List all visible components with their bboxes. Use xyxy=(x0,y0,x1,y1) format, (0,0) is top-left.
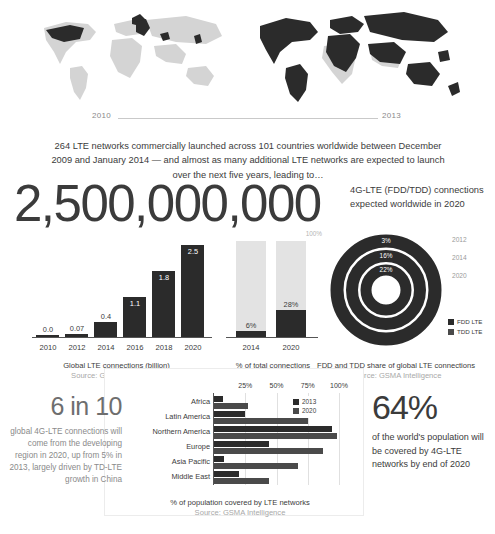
pct-category-label: 2020 xyxy=(271,343,311,352)
hbar-bar xyxy=(214,456,224,462)
chart-population-coverage: 25%50%75%100% AfricaLatin AmericaNorther… xyxy=(120,382,360,512)
caption-source: Source: GSMA Intelligence xyxy=(120,508,360,518)
vbar-bar xyxy=(181,245,204,337)
vbar-bar xyxy=(94,322,117,337)
ring-year-2014: 2014 xyxy=(452,254,467,261)
stat-six-in-ten-value: 6 in 10 xyxy=(6,392,122,421)
vbar-value-label: 0.4 xyxy=(88,312,124,321)
legend-item-tdd: TDD LTE xyxy=(448,328,482,335)
legend-item-2020: 2020 xyxy=(293,407,316,414)
ring-label-2020: 22% xyxy=(371,266,401,273)
hbar-category-label: Northern America xyxy=(120,427,210,436)
ring-label-2014: 16% xyxy=(371,252,401,259)
chart-global-lte-connections: 0.020100.0720120.420141.120161.820182.52… xyxy=(14,240,219,358)
pct-value-bar xyxy=(236,331,266,337)
hbar-category-label: Middle East xyxy=(120,472,210,481)
stat-six-in-ten-description: global 4G-LTE connections will come from… xyxy=(6,426,122,485)
hbar-tick-label: 25% xyxy=(232,382,258,389)
maps-section: 2010 2013 xyxy=(0,6,495,124)
world-map-2013 xyxy=(252,6,464,106)
hbar-category-label: Asia Pacific xyxy=(120,457,210,466)
chart-fdd-tdd-share: 3% 16% 22% 2012 2014 2020 FDD LTE TDD LT… xyxy=(330,234,495,358)
legend-item-fdd: FDD LTE xyxy=(448,318,482,325)
map-year-2013-label: 2013 xyxy=(382,111,401,120)
hbar-tick-label: 75% xyxy=(295,382,321,389)
hbar-tick-label: 50% xyxy=(264,382,290,389)
hbar-category-label: Latin America xyxy=(120,412,210,421)
hbar-legend: 2013 2020 xyxy=(290,396,319,418)
hbar-category-label: Europe xyxy=(120,442,210,451)
concentric-rings-svg xyxy=(330,234,442,346)
hbar-bar xyxy=(214,471,239,477)
world-map-2010 xyxy=(36,6,236,106)
hbar-bar xyxy=(214,478,269,484)
caption-title: % of population covered by LTE networks xyxy=(120,498,360,508)
map-year-2010-label: 2010 xyxy=(92,111,111,120)
hbar-bar xyxy=(214,411,245,417)
infographic-page: 2010 2013 264 LTE networks commercially … xyxy=(0,0,495,534)
vbar-bar xyxy=(36,335,59,337)
headline-big-number-caption: 4G-LTE (FDD/TDD) connections expected wo… xyxy=(350,184,490,212)
vbar-axis-line xyxy=(32,337,212,338)
hbar-bar xyxy=(214,463,298,469)
vbar-value-label: 0.07 xyxy=(59,324,95,333)
vbar-value-label: 1.1 xyxy=(117,299,153,308)
pct-value-label: 6% xyxy=(231,321,271,330)
hbar-bar xyxy=(214,426,332,432)
legend-swatch-tdd-icon xyxy=(448,329,454,335)
hbar-bar xyxy=(214,403,248,409)
map-timeline-connector xyxy=(118,118,378,119)
hbar-gridline xyxy=(339,393,340,485)
hbar-bar xyxy=(214,448,323,454)
vbar-bar xyxy=(65,334,88,337)
stat-sixty-four-percent: 64% of the world's population will be co… xyxy=(372,388,492,472)
pct-value-label: 28% xyxy=(271,300,311,309)
hbar-category-label: Africa xyxy=(120,397,210,406)
pct-axis-line xyxy=(226,337,318,338)
chart-pct-total-connections: 100% 6%201428%2020 xyxy=(222,232,322,358)
legend-swatch-fdd-icon xyxy=(448,319,454,325)
legend-label-fdd: FDD LTE xyxy=(457,318,482,325)
caption-population-coverage: % of population covered by LTE networks … xyxy=(120,498,360,519)
hbar-bar xyxy=(214,418,308,424)
legend-label-2020: 2020 xyxy=(302,407,316,414)
vbar-value-label: 1.8 xyxy=(146,273,182,282)
vbar-category-label: 2020 xyxy=(175,343,211,352)
pct-category-label: 2014 xyxy=(231,343,271,352)
stat-sixty-four-description: of the world's population will be covere… xyxy=(372,431,492,472)
legend-label-2013: 2013 xyxy=(302,398,316,405)
pct-reference-label: 100% xyxy=(306,230,322,237)
stat-six-in-ten: 6 in 10 global 4G-LTE connections will c… xyxy=(6,392,122,485)
hbar-bar xyxy=(214,441,269,447)
vbar-value-label: 2.5 xyxy=(175,247,211,256)
hbar-bar xyxy=(214,396,223,402)
stat-sixty-four-value: 64% xyxy=(372,388,492,427)
ring-label-2012: 3% xyxy=(371,237,401,244)
ring-year-2012: 2012 xyxy=(452,236,467,243)
headline-big-number: 2,500,000,000 xyxy=(14,178,321,229)
legend-item-2013: 2013 xyxy=(293,398,316,405)
hbar-tick-label: 100% xyxy=(326,382,352,389)
rings-legend: FDD LTE TDD LTE xyxy=(448,318,482,338)
legend-swatch-2020-icon xyxy=(293,408,299,414)
hbar-gridline xyxy=(277,393,278,485)
hbar-bar xyxy=(214,433,337,439)
legend-swatch-2013-icon xyxy=(293,399,299,405)
ring-year-2020: 2020 xyxy=(452,272,467,279)
legend-label-tdd: TDD LTE xyxy=(457,328,482,335)
pct-value-bar xyxy=(276,310,306,337)
